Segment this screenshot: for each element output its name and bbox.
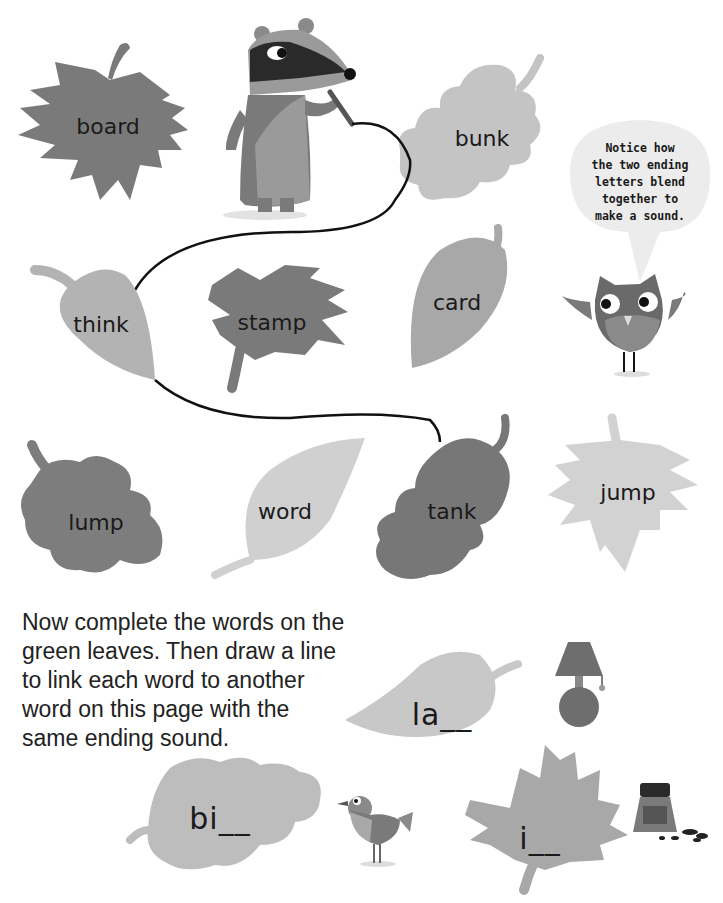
instruction-line: word on this page with the [22, 695, 362, 724]
bubble-line: letters blend [575, 174, 705, 191]
bird-illustration [337, 796, 413, 867]
bubble-line: Notice how [575, 140, 705, 157]
leaf-word-tank: tank [428, 499, 477, 524]
instruction-line: to link each word to another [22, 666, 362, 695]
leaf-word-jump: jump [600, 480, 655, 505]
leaf-word-think: think [73, 312, 128, 337]
bubble-line: together to [575, 191, 705, 208]
leaf-word-card: card [433, 290, 481, 315]
ink-bottle-illustration [633, 783, 708, 842]
leaf-ink-shape [465, 745, 628, 890]
lamp-illustration [555, 642, 605, 727]
badger-illustration [223, 18, 356, 220]
leaf-word-word: word [258, 499, 312, 524]
speech-bubble-text: Notice how the two ending letters blend … [575, 140, 705, 225]
instructions-paragraph: Now complete the words on the green leav… [22, 608, 362, 753]
exercise-ink-blank[interactable]: i__ [519, 821, 560, 856]
instruction-line: Now complete the words on the [22, 608, 362, 637]
leaf-word-lump: lump [68, 510, 123, 535]
exercise-lamp-blank[interactable]: la__ [412, 697, 473, 732]
bubble-line: the two ending [575, 157, 705, 174]
leaf-word-stamp: stamp [238, 310, 307, 335]
instruction-line: same ending sound. [22, 724, 362, 753]
owl-illustration [562, 274, 686, 377]
leaf-word-bunk: bunk [455, 126, 510, 151]
exercise-bird-blank[interactable]: bi__ [189, 801, 250, 836]
bubble-line: make a sound. [575, 208, 705, 225]
instruction-line: green leaves. Then draw a line [22, 637, 362, 666]
leaf-word-board: board [76, 114, 140, 139]
